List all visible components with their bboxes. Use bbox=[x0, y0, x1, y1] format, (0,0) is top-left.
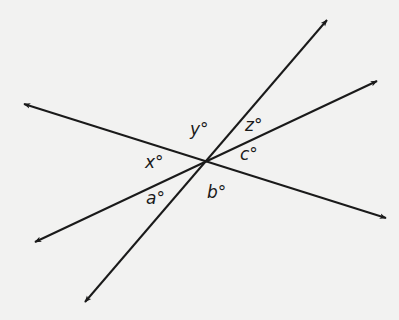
intersecting-lines-diagram: y° z° x° c° a° b° bbox=[0, 0, 399, 320]
angle-label-z: z° bbox=[244, 115, 262, 135]
angle-label-b: b° bbox=[207, 182, 226, 202]
angle-label-y: y° bbox=[189, 119, 209, 139]
angle-label-c: c° bbox=[240, 144, 258, 164]
angle-label-x: x° bbox=[144, 152, 164, 172]
angle-label-a: a° bbox=[146, 188, 165, 208]
line-3 bbox=[85, 20, 327, 302]
